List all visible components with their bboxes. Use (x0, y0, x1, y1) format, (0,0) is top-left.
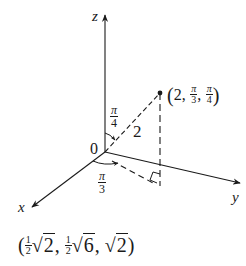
projection-line (112, 161, 155, 184)
theta-angle-label: π3 (98, 170, 106, 195)
y-axis-label: y (232, 190, 239, 205)
z-axis-label: z (92, 9, 98, 24)
rho-length-label: 2 (133, 123, 142, 140)
right-angle-marker (150, 172, 160, 183)
phi-fraction: π4 (206, 84, 213, 105)
diagram-canvas (0, 0, 246, 266)
phi-angle-arc (105, 133, 115, 140)
point-spherical-label: (2, π3, π4) (167, 84, 219, 105)
x-axis (32, 152, 105, 207)
cartesian-coordinates-label: (12√2, 12√6, √2) (18, 233, 134, 256)
origin-label: 0 (90, 141, 98, 157)
phi-angle-label: π4 (110, 104, 118, 129)
point-marker (158, 91, 163, 96)
x-axis-label: x (18, 200, 25, 215)
